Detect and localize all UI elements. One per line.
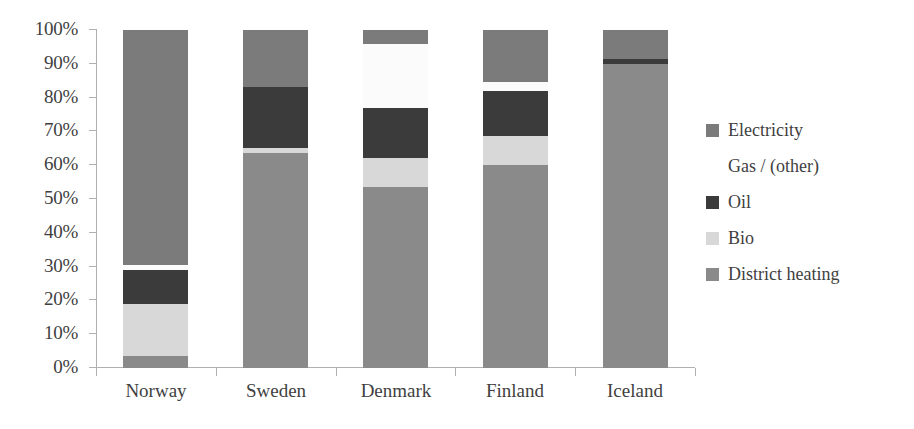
plot-area	[96, 29, 695, 368]
bar-segment-bio	[123, 304, 188, 356]
legend-label: Electricity	[728, 120, 803, 140]
legend-swatch-icon	[706, 232, 719, 245]
bar-segment-oil	[483, 91, 548, 137]
legend-swatch-icon	[706, 268, 719, 281]
x-axis: NorwaySwedenDenmarkFinlandIceland	[96, 380, 695, 410]
bar-segment-electricity	[363, 30, 428, 44]
y-axis-tick-label: 10%	[0, 323, 78, 342]
stacked-bar-chart: 0%10%20%30%40%50%60%70%80%90%100% Norway…	[0, 0, 914, 429]
bar-denmark	[363, 30, 428, 368]
legend-item-district-heating[interactable]: District heating	[706, 256, 910, 292]
legend-item-electricity[interactable]: Electricity	[706, 112, 910, 148]
bar-segment-oil	[363, 108, 428, 159]
bar-norway	[123, 30, 188, 368]
y-axis-tick-mark	[89, 266, 97, 267]
y-axis-tick-label: 70%	[0, 120, 78, 139]
x-axis-tick-mark	[216, 368, 217, 376]
bar-segment-bio	[363, 158, 428, 187]
y-axis-tick-label: 80%	[0, 87, 78, 106]
legend-item-oil[interactable]: Oil	[706, 184, 910, 220]
bar-segment-district-heating	[123, 356, 188, 368]
legend-label: Bio	[728, 228, 754, 248]
y-axis: 0%10%20%30%40%50%60%70%80%90%100%	[0, 0, 86, 429]
bar-segment-oil	[243, 87, 308, 148]
y-axis-tick-mark	[89, 232, 97, 233]
x-axis-tick-mark	[575, 368, 576, 376]
y-axis-tick-mark	[89, 130, 97, 131]
y-axis-tick-label: 30%	[0, 256, 78, 275]
y-axis-tick-label: 60%	[0, 154, 78, 173]
x-axis-label-sweden: Sweden	[221, 380, 331, 402]
y-axis-tick-mark	[89, 333, 97, 334]
bar-segment-gas-other	[483, 82, 548, 90]
bar-segment-gas-other	[123, 265, 188, 270]
y-axis-tick-label: 50%	[0, 188, 78, 207]
bar-segment-district-heating	[603, 64, 668, 368]
y-axis-tick-label: 0%	[0, 357, 78, 376]
y-axis-tick-label: 40%	[0, 222, 78, 241]
bar-segment-oil	[603, 59, 668, 64]
bar-segment-district-heating	[483, 165, 548, 368]
legend-label: District heating	[728, 264, 839, 284]
y-axis-tick-mark	[89, 97, 97, 98]
bar-finland	[483, 30, 548, 368]
bar-segment-district-heating	[363, 187, 428, 368]
legend-swatch-icon	[706, 124, 719, 137]
x-axis-tick-mark	[455, 368, 456, 376]
bar-segment-electricity	[603, 30, 668, 59]
bar-sweden	[243, 30, 308, 368]
legend-label: Gas / (other)	[728, 156, 819, 176]
x-axis-tick-mark	[96, 368, 97, 376]
bar-segment-bio	[243, 148, 308, 153]
chart-legend: ElectricityGas / (other)OilBioDistrict h…	[706, 112, 910, 292]
bar-segment-electricity	[243, 30, 308, 87]
x-axis-tick-mark	[695, 368, 696, 376]
bar-segment-gas-other	[363, 44, 428, 108]
legend-swatch-icon	[706, 196, 719, 209]
y-axis-tick-mark	[89, 63, 97, 64]
y-axis-tick-mark	[89, 29, 97, 30]
x-axis-tick-mark	[336, 368, 337, 376]
bar-segment-oil	[123, 270, 188, 304]
x-axis-label-finland: Finland	[460, 380, 570, 402]
y-axis-tick-mark	[89, 299, 97, 300]
x-axis-label-norway: Norway	[101, 380, 211, 402]
x-axis-label-iceland: Iceland	[580, 380, 690, 402]
y-axis-tick-label: 20%	[0, 289, 78, 308]
y-axis-tick-mark	[89, 198, 97, 199]
legend-item-gas-other[interactable]: Gas / (other)	[706, 148, 910, 184]
bar-segment-electricity	[483, 30, 548, 82]
x-axis-label-denmark: Denmark	[341, 380, 451, 402]
bar-segment-bio	[483, 136, 548, 165]
bar-segment-electricity	[123, 30, 188, 265]
y-axis-tick-label: 100%	[0, 19, 78, 38]
bar-iceland	[603, 30, 668, 368]
y-axis-tick-label: 90%	[0, 53, 78, 72]
y-axis-tick-mark	[89, 164, 97, 165]
legend-item-bio[interactable]: Bio	[706, 220, 910, 256]
legend-label: Oil	[728, 192, 751, 212]
legend-swatch-icon	[706, 160, 719, 173]
bar-segment-district-heating	[243, 153, 308, 368]
